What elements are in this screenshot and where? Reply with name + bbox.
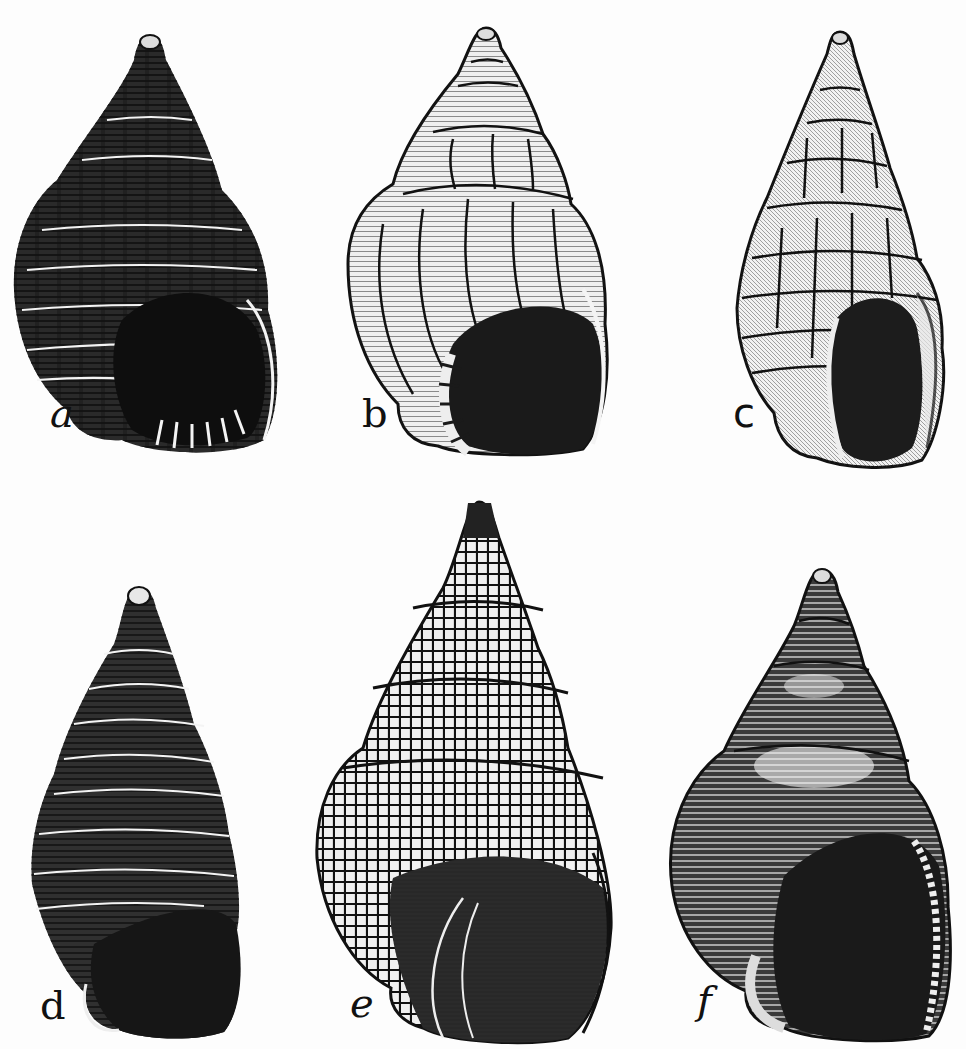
label-b: b: [362, 393, 388, 433]
shell-e-drawing: [313, 498, 617, 1046]
label-f: f: [697, 980, 712, 1020]
label-d: d: [40, 985, 66, 1025]
shell-d-drawing: [24, 584, 248, 1042]
shell-f-drawing: [664, 566, 954, 1044]
label-a: a: [50, 393, 74, 433]
label-c: c: [733, 393, 755, 433]
label-e: e: [350, 983, 374, 1023]
illustration-plate: a b: [0, 0, 966, 1049]
